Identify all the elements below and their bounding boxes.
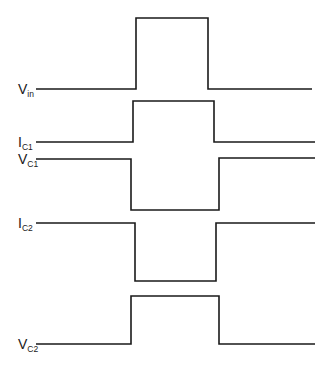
signal-label-vc2: VC2 (18, 336, 38, 354)
signal-ic1: IC1 (18, 101, 315, 152)
waveform-ic1 (36, 101, 315, 142)
waveform-ic2 (36, 223, 315, 281)
timing-diagram: Vin IC1 VC1 IC2 VC2 (0, 0, 334, 365)
signal-label-vin: Vin (18, 81, 34, 99)
waveform-vc2 (36, 296, 315, 344)
signal-label-vc1: VC1 (18, 151, 38, 169)
signal-vin: Vin (18, 18, 312, 99)
signal-vc2: VC2 (18, 296, 315, 354)
signal-vc1: VC1 (18, 151, 315, 210)
waveform-vc1 (36, 158, 315, 210)
signal-label-ic2: IC2 (18, 215, 33, 233)
signal-label-ic1: IC1 (18, 134, 33, 152)
waveform-vin (36, 18, 312, 89)
signal-ic2: IC2 (18, 215, 315, 281)
